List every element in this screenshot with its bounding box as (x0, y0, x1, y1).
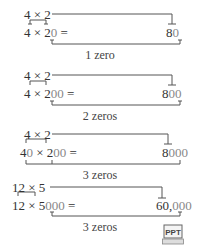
equation-lhs-1: 4 × 20 = (24, 26, 68, 39)
svg-text:PPT: PPT (165, 228, 181, 237)
result-2: 800 (162, 87, 182, 100)
result-3: 8000 (162, 146, 188, 159)
fact-2: 4 × 2 (24, 69, 51, 82)
fact-1: 4 × 2 (24, 8, 51, 21)
fact-4: 12 × 5 (12, 181, 45, 194)
fact-3: 4 × 2 (24, 128, 51, 141)
zeros-label-1: 1 zero (0, 48, 200, 63)
equation-lhs-2: 4 × 200 = (24, 87, 74, 100)
result-1: 80 (166, 26, 179, 39)
equation-lhs-3: 40 × 200 = (20, 146, 77, 159)
equation-lhs-4: 12 × 5000 = (12, 199, 75, 212)
zeros-label-2: 2 zeros (0, 109, 200, 124)
ppt-icon[interactable]: PPT (162, 224, 184, 246)
result-4: 60,000 (156, 199, 192, 212)
